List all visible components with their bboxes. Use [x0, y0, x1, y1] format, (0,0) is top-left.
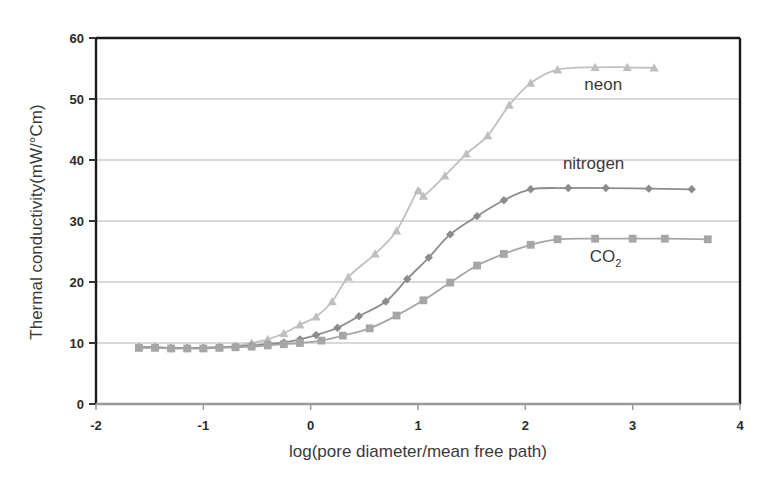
data-point-marker: [296, 339, 304, 347]
y-tick-label: 0: [77, 397, 84, 412]
data-point-marker: [419, 296, 427, 304]
data-point-marker: [135, 344, 143, 352]
x-axis-title: log(pore diameter/mean free path): [289, 442, 547, 461]
x-tick-label: 0: [307, 418, 314, 433]
x-tick-label: 1: [414, 418, 421, 433]
x-tick-label: 2: [522, 418, 529, 433]
y-tick-label: 30: [70, 214, 84, 229]
chart-background: [0, 0, 775, 480]
data-point-marker: [554, 235, 562, 243]
data-point-marker: [183, 345, 191, 353]
data-point-marker: [661, 235, 669, 243]
series-label-neon: neon: [584, 75, 622, 94]
data-point-marker: [264, 342, 272, 350]
y-tick-label: 60: [70, 31, 84, 46]
data-point-marker: [318, 337, 326, 345]
data-point-marker: [339, 332, 347, 340]
data-point-marker: [232, 343, 240, 351]
data-point-marker: [248, 343, 256, 351]
data-point-marker: [393, 312, 401, 320]
data-point-marker: [199, 345, 207, 353]
data-point-marker: [704, 235, 712, 243]
data-point-marker: [629, 235, 637, 243]
data-point-marker: [366, 324, 374, 332]
x-tick-label: 3: [629, 418, 636, 433]
data-point-marker: [473, 262, 481, 270]
data-point-marker: [167, 345, 175, 353]
data-point-marker: [151, 344, 159, 352]
y-tick-label: 20: [70, 275, 84, 290]
data-point-marker: [216, 344, 224, 352]
thermal-conductivity-line-chart: 0102030405060 -2-101234 Thermal conducti…: [0, 0, 775, 480]
x-tick-label: -2: [90, 418, 102, 433]
y-tick-label: 50: [70, 92, 84, 107]
x-tick-label: 4: [736, 418, 744, 433]
chart-figure: 0102030405060 -2-101234 Thermal conducti…: [0, 0, 775, 480]
data-point-marker: [500, 250, 508, 258]
y-tick-label: 10: [70, 336, 84, 351]
data-point-marker: [446, 279, 454, 287]
data-point-marker: [280, 340, 288, 348]
x-tick-label: -1: [198, 418, 210, 433]
y-tick-label: 40: [70, 153, 84, 168]
series-label-nitrogen: nitrogen: [563, 154, 624, 173]
y-axis-title: Thermal conductivity(mW/°Cm): [27, 104, 46, 339]
data-point-marker: [591, 235, 599, 243]
data-point-marker: [527, 241, 535, 249]
